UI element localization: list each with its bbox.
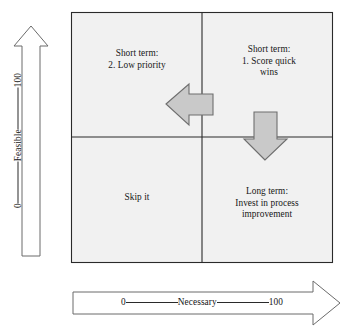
quadrant-bottom-right-label: Long term: Invest in process improvement	[206, 186, 328, 221]
quadrant-top-left-line1: Short term:	[78, 48, 196, 60]
quadrant-bottom-left-line1: Skip it	[78, 192, 196, 204]
x-axis-rule-right	[217, 302, 269, 303]
y-axis-rule-low	[18, 161, 19, 203]
quadrant-top-left-line2: 2. Low priority	[78, 60, 196, 72]
y-axis-label: 0Feasible100	[13, 27, 24, 255]
quadrant-top-left-label: Short term: 2. Low priority	[78, 48, 196, 71]
y-axis-title: Feasible	[13, 129, 23, 161]
quadrant-bottom-right-line1: Long term:	[206, 186, 328, 198]
x-axis-title: Necessary	[178, 297, 217, 307]
quadrant-top-right-line3: wins	[210, 67, 328, 79]
quadrant-bottom-left-label: Skip it	[78, 192, 196, 204]
quadrant-bottom-right-line2: Invest in process	[206, 198, 328, 210]
x-axis-max: 100	[269, 297, 283, 307]
y-axis-min: 0	[13, 203, 23, 208]
quadrant-top-right-line2: 1. Score quick	[210, 56, 328, 68]
x-axis-rule-left	[126, 302, 178, 303]
quadrant-bottom-right-line3: improvement	[206, 209, 328, 221]
x-axis-label: 0Necessary100	[73, 297, 331, 308]
quadrant-top-right-line1: Short term:	[210, 44, 328, 56]
prioritization-matrix-figure: Short term: 2. Low priority Short term: …	[0, 0, 345, 330]
y-axis-max: 100	[13, 73, 23, 87]
y-axis-rule-high	[18, 87, 19, 129]
quadrant-top-right-label: Short term: 1. Score quick wins	[210, 44, 328, 79]
